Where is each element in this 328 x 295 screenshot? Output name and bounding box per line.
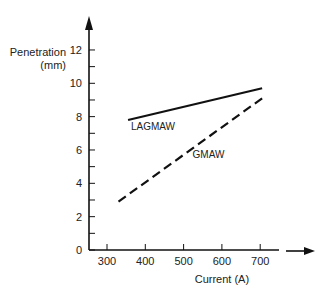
x-axis-arrow-head	[304, 247, 315, 255]
y-tick-label: 2	[76, 211, 82, 223]
series-label-lagmaw: LAGMAW	[131, 121, 176, 132]
series-label-gmaw: GMAW	[193, 149, 225, 160]
axes	[85, 16, 315, 255]
y-axis-arrow	[85, 16, 93, 30]
y-tick-label: 0	[76, 244, 82, 256]
series-line-lagmaw	[128, 88, 262, 120]
y-tick-label: 4	[76, 177, 82, 189]
x-tick-label: 400	[136, 255, 154, 267]
y-axis-label: (mm)	[40, 59, 66, 71]
ticks	[89, 50, 260, 250]
x-tick-label: 700	[251, 255, 269, 267]
y-tick-label: 6	[76, 144, 82, 156]
x-tick-label: 600	[213, 255, 231, 267]
x-tick-label: 300	[98, 255, 116, 267]
y-axis-label: Penetration	[10, 46, 66, 58]
series-line-gmaw	[118, 98, 262, 201]
y-tick-label: 10	[70, 77, 82, 89]
x-tick-label: 500	[174, 255, 192, 267]
y-tick-label: 8	[76, 111, 82, 123]
y-tick-label: 12	[70, 44, 82, 56]
x-axis-label: Current (A)	[195, 273, 249, 285]
labels: 024681012300400500600700Current (A)Penet…	[10, 44, 270, 285]
chart: 024681012300400500600700Current (A)Penet…	[0, 0, 328, 295]
series	[118, 88, 262, 201]
